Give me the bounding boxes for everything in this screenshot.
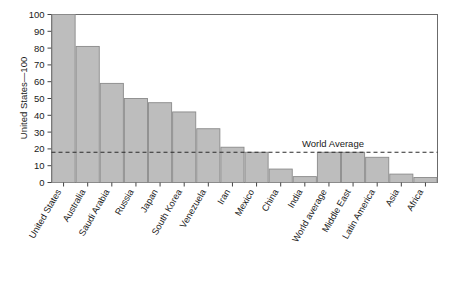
y-tick-label: 20 <box>34 143 45 154</box>
bar <box>100 83 123 182</box>
world-average-annotation: World Average <box>302 138 364 149</box>
y-tick-label: 80 <box>34 43 45 54</box>
y-tick-label: 90 <box>34 26 45 37</box>
y-tick-label: 50 <box>34 93 45 104</box>
y-tick-label: 40 <box>34 110 45 121</box>
chart-canvas: United States—100 0102030405060708090100… <box>0 0 468 283</box>
bar <box>124 99 147 183</box>
bar <box>269 169 292 182</box>
bar <box>76 46 99 182</box>
bar <box>197 129 220 183</box>
bar-chart: United States—100 0102030405060708090100… <box>0 0 468 283</box>
bar <box>390 174 413 182</box>
y-tick-label: 70 <box>34 59 45 70</box>
y-tick-label: 0 <box>39 177 44 188</box>
bar <box>245 152 268 182</box>
y-tick-label: 30 <box>34 127 45 138</box>
bar <box>342 152 365 182</box>
y-tick-label: 60 <box>34 76 45 87</box>
y-tick-label: 10 <box>34 160 45 171</box>
y-tick-label: 100 <box>29 9 45 20</box>
bar <box>293 177 316 183</box>
bar <box>366 157 389 182</box>
bar <box>414 177 437 182</box>
bar <box>149 103 172 183</box>
bar <box>173 112 196 183</box>
bar <box>317 152 340 182</box>
y-axis-label: United States—100 <box>18 57 29 139</box>
bar <box>52 15 75 183</box>
